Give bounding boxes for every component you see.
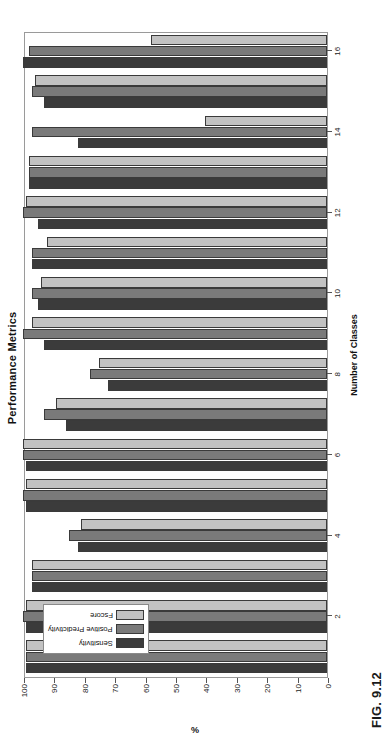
x-tick-mark bbox=[327, 535, 332, 536]
bar bbox=[32, 288, 327, 298]
y-tick-label: 60 bbox=[141, 684, 150, 736]
bar-group bbox=[25, 233, 327, 273]
y-tick-label: 90 bbox=[50, 684, 59, 736]
x-tick-label: 2 bbox=[333, 614, 342, 618]
x-tick-label: 4 bbox=[333, 533, 342, 537]
bar bbox=[26, 501, 327, 511]
legend-swatch bbox=[116, 624, 144, 634]
bar-group bbox=[25, 112, 327, 152]
bar bbox=[78, 138, 327, 148]
bar bbox=[99, 358, 327, 368]
legend-label: Sensitivity bbox=[79, 639, 113, 648]
y-tick-label: 40 bbox=[202, 684, 211, 736]
x-tick-mark bbox=[327, 454, 332, 455]
legend-item: Sensitivity bbox=[79, 638, 144, 648]
x-tick-label: 10 bbox=[333, 289, 342, 298]
y-tick-label: 50 bbox=[172, 684, 181, 736]
bar bbox=[69, 530, 327, 540]
bar bbox=[26, 479, 327, 489]
y-tick-mark bbox=[54, 678, 55, 683]
bar bbox=[38, 299, 327, 309]
bar bbox=[108, 380, 327, 390]
y-tick-mark bbox=[176, 678, 177, 683]
bar bbox=[44, 340, 327, 350]
bar bbox=[29, 167, 327, 177]
bar bbox=[151, 35, 327, 45]
y-tick-mark bbox=[298, 678, 299, 683]
x-tick-mark bbox=[327, 131, 332, 132]
x-tick-label: 6 bbox=[333, 453, 342, 457]
bar bbox=[66, 420, 327, 430]
x-tick-mark bbox=[327, 373, 332, 374]
y-tick-label: 10 bbox=[293, 684, 302, 736]
bar bbox=[26, 663, 327, 673]
bar-group bbox=[25, 314, 327, 354]
bar bbox=[38, 219, 327, 229]
y-tick-mark bbox=[115, 678, 116, 683]
figure-page: Performance Metrics % 010203040506070809… bbox=[0, 0, 390, 736]
y-tick-mark bbox=[206, 678, 207, 683]
y-tick-mark bbox=[328, 678, 329, 683]
y-tick-mark bbox=[24, 678, 25, 683]
x-tick-label: 16 bbox=[333, 47, 342, 56]
bar bbox=[44, 409, 327, 419]
bar bbox=[23, 490, 327, 500]
bar bbox=[32, 259, 327, 269]
x-tick-mark bbox=[327, 212, 332, 213]
y-tick-mark bbox=[237, 678, 238, 683]
bar bbox=[32, 317, 327, 327]
bar-group bbox=[25, 516, 327, 556]
chart-legend: SensitivityPositive PredictivityFscore bbox=[43, 604, 149, 654]
bar bbox=[32, 127, 327, 137]
bar-group bbox=[25, 556, 327, 596]
bar bbox=[78, 542, 327, 552]
x-axis-title: Number of Classes bbox=[349, 33, 359, 677]
legend-swatch bbox=[116, 638, 144, 648]
bar bbox=[47, 237, 327, 247]
x-tick-mark bbox=[327, 292, 332, 293]
bar-group bbox=[25, 475, 327, 515]
x-tick-label: 14 bbox=[333, 127, 342, 136]
y-tick-label: 80 bbox=[80, 684, 89, 736]
bar bbox=[29, 156, 327, 166]
x-tick-mark bbox=[327, 615, 332, 616]
bar-group bbox=[25, 31, 327, 71]
y-tick-label: 0 bbox=[324, 684, 333, 736]
bar bbox=[29, 178, 327, 188]
bar-group bbox=[25, 193, 327, 233]
bar-group bbox=[25, 273, 327, 313]
x-tick-label: 8 bbox=[333, 372, 342, 376]
bar bbox=[23, 57, 327, 67]
bar bbox=[32, 560, 327, 570]
bar bbox=[205, 116, 327, 126]
legend-label: Fscore bbox=[90, 611, 113, 620]
y-tick-label: 70 bbox=[111, 684, 120, 736]
legend-item: Positive Predictivity bbox=[48, 624, 144, 634]
y-tick-mark bbox=[146, 678, 147, 683]
bar bbox=[23, 207, 327, 217]
bar bbox=[32, 248, 327, 258]
bar bbox=[81, 519, 327, 529]
x-tick-label: 12 bbox=[333, 208, 342, 217]
bar bbox=[23, 439, 327, 449]
bar bbox=[32, 571, 327, 581]
x-tick-mark bbox=[327, 50, 332, 51]
bar bbox=[26, 196, 327, 206]
bar bbox=[29, 46, 327, 56]
bar bbox=[44, 97, 327, 107]
bar-group bbox=[25, 354, 327, 394]
bar bbox=[32, 582, 327, 592]
bar-group bbox=[25, 152, 327, 192]
y-tick-label: 100 bbox=[20, 684, 29, 736]
figure-body: Performance Metrics % 010203040506070809… bbox=[0, 0, 390, 736]
legend-item: Fscore bbox=[90, 610, 144, 620]
y-tick-label: 30 bbox=[232, 684, 241, 736]
chart-title: Performance Metrics bbox=[6, 0, 18, 736]
bar bbox=[41, 277, 327, 287]
bar bbox=[56, 398, 327, 408]
bar bbox=[90, 369, 327, 379]
bar bbox=[23, 450, 327, 460]
legend-label: Positive Predictivity bbox=[48, 625, 113, 634]
bar-group bbox=[25, 394, 327, 434]
y-tick-label: 20 bbox=[263, 684, 272, 736]
